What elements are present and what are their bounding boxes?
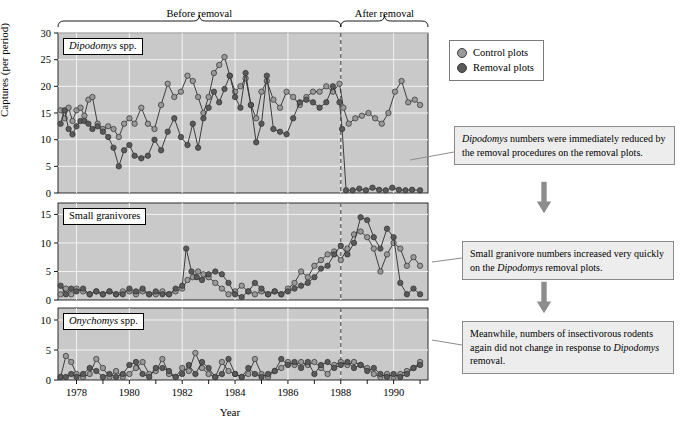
legend-item-removal: Removal plots: [457, 60, 534, 75]
svg-text:1986: 1986: [277, 387, 298, 398]
svg-text:15: 15: [41, 108, 52, 119]
down-arrow-icon: [535, 180, 553, 216]
svg-text:1984: 1984: [225, 387, 247, 398]
svg-text:After removal: After removal: [355, 8, 414, 19]
svg-text:0: 0: [46, 375, 51, 386]
svg-text:10: 10: [41, 315, 52, 326]
circle-marker-icon: [457, 48, 467, 58]
callout-onychomys: Meanwhile, numbers of insectivorous rode…: [462, 321, 674, 374]
svg-text:1978: 1978: [66, 387, 87, 398]
svg-text:10: 10: [41, 134, 52, 145]
svg-text:1990: 1990: [383, 387, 404, 398]
legend-item-control: Control plots: [457, 45, 534, 60]
svg-text:0: 0: [46, 295, 51, 306]
callout-granivores: Small granivore numbers increased very q…: [462, 241, 674, 280]
legend: Control plots Removal plots: [449, 40, 544, 81]
svg-text:Before removal: Before removal: [167, 8, 233, 19]
svg-text:1988: 1988: [330, 387, 351, 398]
panel-label-onychomys: Onychomys spp.: [63, 313, 144, 330]
svg-text:5: 5: [46, 161, 51, 172]
down-arrow-icon: [535, 280, 553, 316]
legend-label-removal: Removal plots: [473, 60, 534, 75]
x-axis-title: Year: [150, 406, 310, 418]
svg-text:20: 20: [41, 81, 52, 92]
svg-text:1980: 1980: [119, 387, 140, 398]
svg-text:25: 25: [41, 54, 52, 65]
svg-text:5: 5: [46, 345, 51, 356]
svg-text:5: 5: [46, 266, 51, 277]
legend-label-control: Control plots: [473, 45, 528, 60]
svg-text:15: 15: [41, 209, 52, 220]
callout-dipodomys: Dipodomys numbers were immediately reduc…: [454, 126, 675, 165]
svg-text:10: 10: [41, 238, 52, 249]
y-axis-title: Captures (per period): [0, 0, 10, 150]
circle-marker-icon: [457, 63, 467, 73]
panel-label-dipodomys: Dipodomys spp.: [63, 38, 143, 55]
figure-root: 0510152025300510150510197819801982198419…: [0, 0, 681, 429]
panel-label-small-granivores: Small granivores: [63, 208, 146, 225]
svg-text:30: 30: [41, 28, 52, 39]
svg-text:0: 0: [46, 188, 51, 199]
svg-text:1982: 1982: [172, 387, 193, 398]
